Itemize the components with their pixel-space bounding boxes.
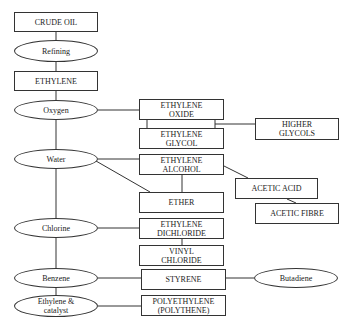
ether-box: ETHER [139,192,224,213]
vinyl-chloride-label-line1: VINYL [169,247,194,256]
ethylene-dichloride-label-line2: DICHLORIDE [157,229,206,238]
butadiene-label: Butadiene [280,274,312,283]
polyethylene-label-line1: POLYETHYLENE [153,297,215,306]
benzene-ellipse: Benzene [14,268,98,288]
polyethylene-label-line2: (POLYTHENE) [158,306,210,315]
ethylene-glycol-label-line1: ETHYLENE [161,130,203,139]
oxygen-ellipse: Oxygen [14,100,98,120]
acetic-fibre-box: ACETIC FIBRE [255,203,339,224]
benzene-label: Benzene [42,274,70,283]
ethylene-box: ETHYLENE [14,71,98,91]
water-label: Water [47,155,66,164]
crude-oil-box: CRUDE OIL [14,12,98,32]
styrene-box: STYRENE [141,269,226,290]
ethylene-glycol-label-line2: GLYCOL [166,139,198,148]
refining-label: Refining [42,47,70,56]
water-ellipse: Water [14,149,98,169]
acetic-fibre-label: ACETIC FIBRE [270,209,324,218]
ethylene-dichloride-label-line1: ETHYLENE [161,220,203,229]
acetic-acid-box: ACETIC ACID [235,178,318,199]
ethylene-alcohol-box: ETHYLENE ALCOHOL [139,154,224,175]
refining-ellipse: Refining [14,40,98,62]
ethylene-catalyst-label-line1: Ethylene & [38,297,75,306]
higher-glycols-label-line2: GLYCOLS [279,129,315,138]
oxygen-label: Oxygen [43,106,68,115]
ethylene-alcohol-label-line2: ALCOHOL [162,165,200,174]
ethylene-catalyst-label-line2: catalyst [44,306,68,315]
acetic-acid-label: ACETIC ACID [252,184,302,193]
ethylene-oxide-label-line2: OXIDE [169,110,194,119]
ether-label: ETHER [169,198,195,207]
styrene-label: STYRENE [166,275,202,284]
chlorine-ellipse: Chlorine [14,218,98,238]
crude-oil-label: CRUDE OIL [35,18,77,27]
ethylene-oxide-label-line1: ETHYLENE [161,101,203,110]
butadiene-ellipse: Butadiene [254,268,338,288]
higher-glycols-label-line1: HIGHER [282,120,312,129]
ethylene-alcohol-label-line1: ETHYLENE [161,156,203,165]
ethylene-glycol-box: ETHYLENE GLYCOL [139,128,224,149]
chlorine-label: Chlorine [42,224,70,233]
vinyl-chloride-box: VINYL CHLORIDE [139,245,224,266]
polyethylene-box: POLYETHYLENE (POLYTHENE) [141,295,226,316]
vinyl-chloride-label-line2: CHLORIDE [161,256,201,265]
ethylene-oxide-box: ETHYLENE OXIDE [139,99,224,120]
higher-glycols-box: HIGHER GLYCOLS [255,118,339,140]
ethylene-dichloride-box: ETHYLENE DICHLORIDE [139,218,224,239]
ethylene-label: ETHYLENE [35,77,77,86]
ethylene-catalyst-ellipse: Ethylene & catalyst [14,295,98,317]
